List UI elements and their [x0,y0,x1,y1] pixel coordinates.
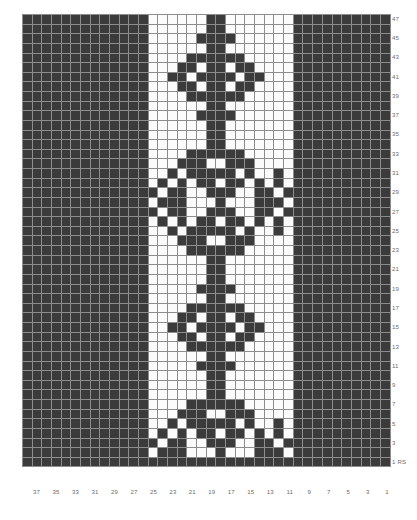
stitch-cell-light[interactable] [197,255,207,265]
stitch-cell-dark[interactable] [313,43,323,53]
stitch-cell-dark[interactable] [100,438,110,448]
stitch-cell-light[interactable] [148,236,158,246]
stitch-cell-dark[interactable] [216,246,226,256]
stitch-cell-dark[interactable] [313,188,323,198]
stitch-grid-table[interactable] [22,14,391,467]
stitch-cell-dark[interactable] [342,332,352,342]
stitch-cell-light[interactable] [274,380,284,390]
stitch-cell-light[interactable] [264,140,274,150]
stitch-cell-light[interactable] [187,15,197,25]
stitch-cell-dark[interactable] [245,63,255,73]
stitch-cell-dark[interactable] [245,409,255,419]
stitch-cell-dark[interactable] [206,92,216,102]
stitch-cell-dark[interactable] [197,419,207,429]
stitch-cell-light[interactable] [148,246,158,256]
stitch-cell-dark[interactable] [129,265,139,275]
stitch-cell-dark[interactable] [342,246,352,256]
stitch-cell-dark[interactable] [216,24,226,34]
stitch-cell-light[interactable] [255,140,265,150]
stitch-cell-dark[interactable] [226,457,236,467]
stitch-cell-dark[interactable] [81,130,91,140]
stitch-cell-dark[interactable] [81,188,91,198]
stitch-cell-light[interactable] [284,255,294,265]
stitch-cell-dark[interactable] [206,294,216,304]
stitch-cell-dark[interactable] [351,226,361,236]
stitch-cell-dark[interactable] [216,351,226,361]
stitch-cell-light[interactable] [148,111,158,121]
stitch-cell-dark[interactable] [351,34,361,44]
stitch-cell-dark[interactable] [235,178,245,188]
stitch-cell-dark[interactable] [303,34,313,44]
stitch-cell-dark[interactable] [119,303,129,313]
stitch-cell-dark[interactable] [197,409,207,419]
stitch-cell-dark[interactable] [245,169,255,179]
stitch-cell-dark[interactable] [313,53,323,63]
stitch-cell-dark[interactable] [303,284,313,294]
stitch-cell-dark[interactable] [216,448,226,458]
stitch-cell-dark[interactable] [274,178,284,188]
stitch-cell-light[interactable] [274,188,284,198]
stitch-cell-light[interactable] [226,101,236,111]
stitch-cell-light[interactable] [274,92,284,102]
stitch-cell-dark[interactable] [216,101,226,111]
stitch-cell-dark[interactable] [293,332,303,342]
stitch-cell-light[interactable] [177,130,187,140]
stitch-cell-dark[interactable] [187,313,197,323]
stitch-cell-light[interactable] [255,351,265,361]
stitch-cell-light[interactable] [177,15,187,25]
stitch-cell-dark[interactable] [129,120,139,130]
stitch-cell-dark[interactable] [361,274,371,284]
stitch-cell-dark[interactable] [293,217,303,227]
stitch-cell-dark[interactable] [351,380,361,390]
stitch-cell-dark[interactable] [71,217,81,227]
stitch-cell-dark[interactable] [119,178,129,188]
stitch-cell-dark[interactable] [187,409,197,419]
stitch-cell-dark[interactable] [332,140,342,150]
stitch-cell-dark[interactable] [226,246,236,256]
stitch-cell-dark[interactable] [100,255,110,265]
stitch-cell-light[interactable] [158,390,168,400]
stitch-cell-light[interactable] [197,371,207,381]
stitch-cell-light[interactable] [226,380,236,390]
stitch-cell-dark[interactable] [303,72,313,82]
stitch-cell-light[interactable] [274,274,284,284]
stitch-cell-dark[interactable] [351,149,361,159]
stitch-cell-dark[interactable] [313,34,323,44]
stitch-cell-dark[interactable] [235,457,245,467]
stitch-cell-dark[interactable] [255,323,265,333]
stitch-cell-dark[interactable] [42,159,52,169]
stitch-cell-dark[interactable] [23,419,33,429]
stitch-cell-dark[interactable] [32,169,42,179]
stitch-cell-dark[interactable] [42,217,52,227]
stitch-cell-dark[interactable] [100,149,110,159]
stitch-cell-dark[interactable] [32,207,42,217]
stitch-cell-dark[interactable] [52,63,62,73]
stitch-cell-light[interactable] [148,390,158,400]
stitch-cell-light[interactable] [235,72,245,82]
stitch-cell-dark[interactable] [32,82,42,92]
stitch-cell-dark[interactable] [322,92,332,102]
stitch-cell-dark[interactable] [313,226,323,236]
stitch-cell-light[interactable] [255,265,265,275]
stitch-cell-dark[interactable] [23,448,33,458]
stitch-cell-dark[interactable] [100,419,110,429]
stitch-cell-dark[interactable] [119,236,129,246]
stitch-cell-dark[interactable] [90,361,100,371]
stitch-cell-dark[interactable] [52,101,62,111]
stitch-cell-dark[interactable] [380,419,390,429]
stitch-cell-light[interactable] [235,120,245,130]
stitch-cell-dark[interactable] [52,448,62,458]
stitch-cell-dark[interactable] [129,274,139,284]
stitch-cell-dark[interactable] [371,323,381,333]
stitch-cell-light[interactable] [206,409,216,419]
stitch-cell-dark[interactable] [206,380,216,390]
stitch-cell-dark[interactable] [100,457,110,467]
stitch-cell-dark[interactable] [61,92,71,102]
stitch-cell-light[interactable] [216,236,226,246]
stitch-cell-dark[interactable] [71,342,81,352]
stitch-cell-dark[interactable] [322,342,332,352]
stitch-cell-dark[interactable] [52,236,62,246]
stitch-cell-dark[interactable] [90,24,100,34]
stitch-cell-dark[interactable] [342,284,352,294]
stitch-cell-dark[interactable] [119,351,129,361]
